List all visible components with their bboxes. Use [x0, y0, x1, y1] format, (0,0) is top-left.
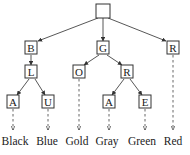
leaf-labels: Black Blue Gold Gray Green Red	[2, 135, 183, 148]
node-e: E	[139, 95, 151, 108]
node-label: A	[105, 96, 113, 108]
edge-root-r	[108, 18, 166, 41]
trie-diagram: B G R L O R A U A E Black Blue Gold Gra	[0, 0, 190, 155]
node-g: G	[97, 41, 109, 54]
node-l: L	[25, 65, 37, 78]
node-r-top: R	[167, 41, 179, 54]
leaf-label-red: Red	[164, 135, 183, 147]
node-label: O	[75, 66, 83, 78]
edge-l-a	[17, 79, 29, 95]
leaf-label-blue: Blue	[36, 135, 58, 147]
leaf-label-gold: Gold	[66, 135, 89, 147]
edge-g-o	[84, 55, 99, 65]
edge-g-r	[107, 55, 122, 65]
tree-edges	[17, 18, 166, 95]
leaf-label-black: Black	[2, 135, 29, 147]
node-label: G	[99, 42, 107, 54]
root-box	[96, 4, 110, 18]
node-a-gray: A	[103, 95, 115, 108]
node-label: L	[28, 66, 35, 78]
node-b: B	[25, 41, 37, 54]
edge-l-u	[35, 79, 45, 95]
node-r-inner: R	[121, 65, 133, 78]
node-u: U	[42, 95, 54, 108]
node-label: R	[123, 66, 131, 78]
leaf-label-green: Green	[128, 135, 156, 147]
node-label: R	[169, 42, 177, 54]
node-label: A	[9, 96, 17, 108]
edge-r-e	[130, 79, 142, 95]
node-a-black: A	[7, 95, 19, 108]
node-label: U	[44, 96, 52, 108]
edge-root-b	[38, 18, 98, 41]
node-o: O	[73, 65, 85, 78]
root-node	[96, 4, 110, 18]
node-label: B	[27, 42, 34, 54]
leaf-label-gray: Gray	[96, 135, 119, 148]
node-label: E	[142, 96, 149, 108]
edge-r-a	[112, 79, 124, 95]
